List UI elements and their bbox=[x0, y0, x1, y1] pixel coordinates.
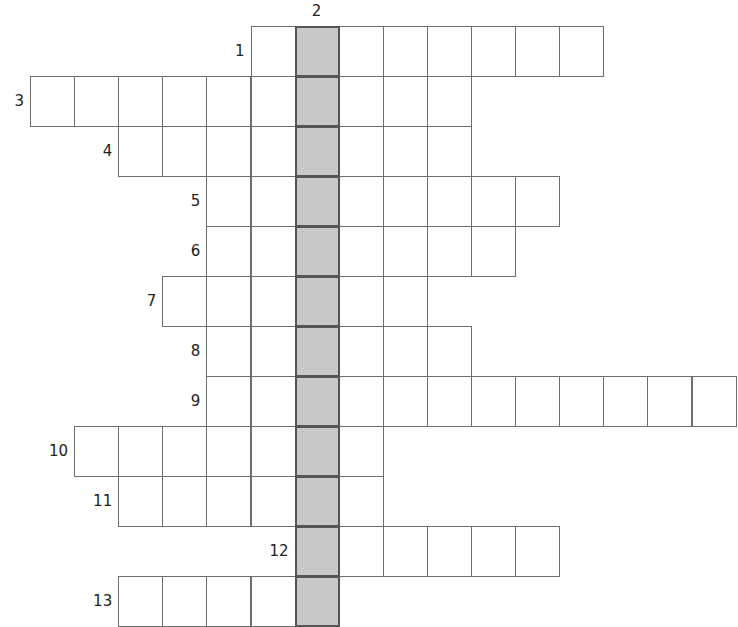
answer-cell[interactable] bbox=[206, 426, 251, 477]
clue-number-5: 5 bbox=[176, 192, 200, 210]
answer-cell[interactable] bbox=[515, 176, 560, 227]
answer-cell[interactable] bbox=[471, 526, 516, 577]
answer-cell[interactable] bbox=[251, 576, 296, 627]
answer-cell[interactable] bbox=[74, 426, 119, 477]
answer-cell[interactable] bbox=[206, 276, 251, 327]
answer-cell[interactable] bbox=[515, 376, 560, 427]
answer-cell[interactable] bbox=[692, 376, 737, 427]
answer-cell[interactable] bbox=[206, 176, 251, 227]
shaded-answer-cell[interactable] bbox=[295, 76, 340, 127]
answer-cell[interactable] bbox=[251, 476, 296, 527]
answer-cell[interactable] bbox=[383, 526, 428, 577]
answer-cell[interactable] bbox=[383, 76, 428, 127]
shaded-answer-cell[interactable] bbox=[295, 426, 340, 477]
answer-cell[interactable] bbox=[427, 126, 472, 177]
answer-cell[interactable] bbox=[603, 376, 648, 427]
answer-cell[interactable] bbox=[162, 476, 207, 527]
shaded-answer-cell[interactable] bbox=[295, 526, 340, 577]
answer-cell[interactable] bbox=[383, 276, 428, 327]
clue-number-1: 1 bbox=[221, 42, 245, 60]
answer-cell[interactable] bbox=[206, 326, 251, 377]
shaded-answer-cell[interactable] bbox=[295, 226, 340, 277]
answer-cell[interactable] bbox=[206, 126, 251, 177]
answer-cell[interactable] bbox=[339, 376, 384, 427]
answer-cell[interactable] bbox=[383, 176, 428, 227]
shaded-answer-cell[interactable] bbox=[295, 26, 340, 77]
shaded-answer-cell[interactable] bbox=[295, 476, 340, 527]
answer-cell[interactable] bbox=[118, 126, 163, 177]
answer-cell[interactable] bbox=[162, 576, 207, 627]
answer-cell[interactable] bbox=[251, 226, 296, 277]
answer-cell[interactable] bbox=[118, 76, 163, 127]
answer-cell[interactable] bbox=[251, 126, 296, 177]
clue-number-6: 6 bbox=[176, 242, 200, 260]
answer-cell[interactable] bbox=[427, 376, 472, 427]
answer-cell[interactable] bbox=[74, 76, 119, 127]
answer-cell[interactable] bbox=[339, 426, 384, 477]
answer-cell[interactable] bbox=[515, 526, 560, 577]
answer-cell[interactable] bbox=[30, 76, 75, 127]
answer-cell[interactable] bbox=[647, 376, 692, 427]
answer-cell[interactable] bbox=[383, 376, 428, 427]
answer-cell[interactable] bbox=[383, 226, 428, 277]
answer-cell[interactable] bbox=[339, 176, 384, 227]
answer-cell[interactable] bbox=[515, 26, 560, 77]
answer-cell[interactable] bbox=[383, 326, 428, 377]
answer-cell[interactable] bbox=[427, 326, 472, 377]
answer-cell[interactable] bbox=[471, 176, 516, 227]
answer-cell[interactable] bbox=[339, 526, 384, 577]
answer-cell[interactable] bbox=[427, 76, 472, 127]
answer-cell[interactable] bbox=[559, 26, 604, 77]
shaded-answer-cell[interactable] bbox=[295, 376, 340, 427]
answer-cell[interactable] bbox=[118, 426, 163, 477]
answer-cell[interactable] bbox=[206, 376, 251, 427]
clue-number-2: 2 bbox=[305, 2, 329, 20]
answer-cell[interactable] bbox=[339, 26, 384, 77]
answer-cell[interactable] bbox=[471, 26, 516, 77]
answer-cell[interactable] bbox=[383, 126, 428, 177]
shaded-answer-cell[interactable] bbox=[295, 576, 340, 627]
answer-cell[interactable] bbox=[383, 26, 428, 77]
clue-number-7: 7 bbox=[132, 292, 156, 310]
shaded-answer-cell[interactable] bbox=[295, 326, 340, 377]
answer-cell[interactable] bbox=[339, 476, 384, 527]
answer-cell[interactable] bbox=[339, 276, 384, 327]
answer-cell[interactable] bbox=[339, 126, 384, 177]
answer-cell[interactable] bbox=[206, 76, 251, 127]
clue-number-13: 13 bbox=[88, 592, 112, 610]
answer-cell[interactable] bbox=[251, 426, 296, 477]
answer-cell[interactable] bbox=[251, 26, 296, 77]
answer-cell[interactable] bbox=[251, 376, 296, 427]
answer-cell[interactable] bbox=[339, 326, 384, 377]
answer-cell[interactable] bbox=[118, 476, 163, 527]
answer-cell[interactable] bbox=[427, 226, 472, 277]
shaded-answer-cell[interactable] bbox=[295, 276, 340, 327]
answer-cell[interactable] bbox=[162, 426, 207, 477]
answer-cell[interactable] bbox=[118, 576, 163, 627]
answer-cell[interactable] bbox=[427, 176, 472, 227]
answer-cell[interactable] bbox=[206, 476, 251, 527]
answer-cell[interactable] bbox=[251, 326, 296, 377]
shaded-answer-cell[interactable] bbox=[295, 176, 340, 227]
answer-cell[interactable] bbox=[251, 276, 296, 327]
answer-cell[interactable] bbox=[251, 176, 296, 227]
answer-cell[interactable] bbox=[427, 26, 472, 77]
answer-cell[interactable] bbox=[471, 376, 516, 427]
answer-cell[interactable] bbox=[162, 76, 207, 127]
clue-number-3: 3 bbox=[0, 92, 24, 110]
answer-cell[interactable] bbox=[471, 226, 516, 277]
answer-cell[interactable] bbox=[339, 226, 384, 277]
answer-cell[interactable] bbox=[427, 526, 472, 577]
clue-number-12: 12 bbox=[265, 542, 289, 560]
answer-cell[interactable] bbox=[206, 576, 251, 627]
clue-number-11: 11 bbox=[88, 492, 112, 510]
answer-cell[interactable] bbox=[206, 226, 251, 277]
shaded-answer-cell[interactable] bbox=[295, 126, 340, 177]
answer-cell[interactable] bbox=[251, 76, 296, 127]
answer-cell[interactable] bbox=[162, 126, 207, 177]
answer-cell[interactable] bbox=[559, 376, 604, 427]
clue-number-10: 10 bbox=[44, 442, 68, 460]
answer-cell[interactable] bbox=[162, 276, 207, 327]
answer-cell[interactable] bbox=[339, 76, 384, 127]
